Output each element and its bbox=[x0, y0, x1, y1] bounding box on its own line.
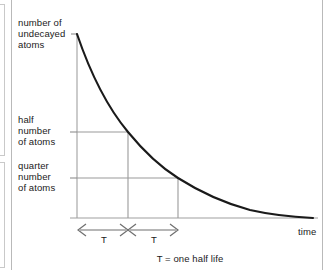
exponential-decay-curve bbox=[77, 34, 313, 218]
diagram-canvas: number of undecayed atoms half number of… bbox=[0, 0, 336, 270]
first-half-life-label: T bbox=[99, 234, 109, 245]
figure-caption: T = one half life bbox=[120, 253, 260, 264]
y-axis-label: number of undecayed atoms bbox=[18, 17, 78, 50]
x-axis-label: time bbox=[298, 226, 328, 237]
quarter-level-label: quarter number of atoms bbox=[18, 160, 76, 193]
half-level-label: half number of atoms bbox=[18, 114, 76, 147]
second-half-life-label: T bbox=[149, 234, 159, 245]
